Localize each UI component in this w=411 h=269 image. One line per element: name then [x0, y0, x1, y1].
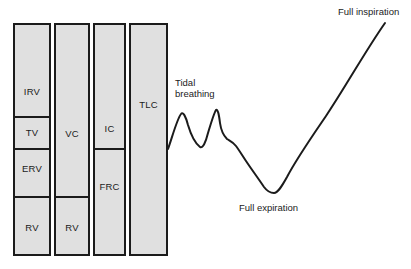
lung-volumes-figure: IRV TV ERV RV VC RV IC FRC TLC Tidal bre…: [0, 0, 411, 269]
label-tidal-breathing: Tidal breathing: [175, 77, 215, 99]
label-full-inspiration: Full inspiration: [338, 6, 399, 17]
spirogram-trace: [0, 0, 411, 269]
spirogram-path: [168, 23, 385, 193]
label-tidal-breathing-line1: Tidal: [175, 77, 215, 88]
label-full-expiration: Full expiration: [239, 202, 298, 213]
label-tidal-breathing-line2: breathing: [175, 88, 215, 99]
